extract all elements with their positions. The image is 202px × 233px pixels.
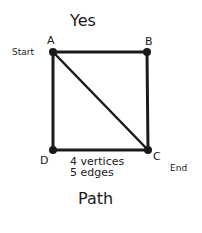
vertex-b	[143, 48, 151, 56]
end-label: End	[170, 162, 187, 174]
vertex-a-label: A	[47, 35, 55, 47]
title-label: Yes	[70, 15, 96, 27]
edge-count: 5 edges	[70, 167, 114, 178]
edge-b-c	[147, 52, 148, 150]
caption-label: Path	[78, 193, 113, 205]
vertex-d-label: D	[40, 155, 48, 167]
vertex-d	[49, 146, 57, 154]
vertex-a	[49, 48, 57, 56]
start-label: Start	[12, 46, 34, 58]
vertex-b-label: B	[145, 36, 153, 48]
vertex-c	[144, 146, 152, 154]
edge-a-c	[53, 52, 148, 150]
vertex-c-label: C	[153, 151, 161, 163]
